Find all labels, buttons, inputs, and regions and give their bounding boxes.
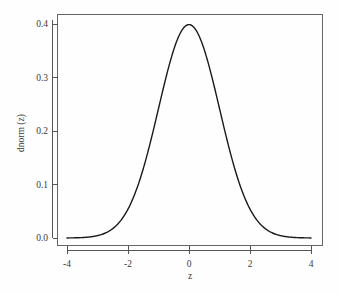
x-tick-label: -2 <box>124 259 132 269</box>
y-tick-label: 0.3 <box>36 73 48 83</box>
y-tick-label: 0.0 <box>36 233 48 243</box>
x-tick-label: 2 <box>248 259 253 269</box>
y-axis-ticks: 0.00.10.20.30.4 <box>36 19 57 243</box>
y-tick-label: 0.4 <box>36 19 48 29</box>
x-tick-label: -4 <box>63 259 71 269</box>
chart-figure: 0.00.10.20.30.4 -4-2024 z dnorm (z) <box>0 0 339 294</box>
normal-density-plot: 0.00.10.20.30.4 -4-2024 z dnorm (z) <box>0 0 339 294</box>
x-tick-label: 4 <box>309 259 314 269</box>
y-tick-label: 0.2 <box>36 126 48 136</box>
plot-panel-background <box>57 14 323 245</box>
x-axis-ticks: -4-2024 <box>63 246 314 270</box>
y-tick-label: 0.1 <box>36 180 48 190</box>
x-axis-title: z <box>188 271 192 281</box>
y-axis-title: dnorm (z) <box>16 114 27 152</box>
x-tick-label: 0 <box>187 259 192 269</box>
